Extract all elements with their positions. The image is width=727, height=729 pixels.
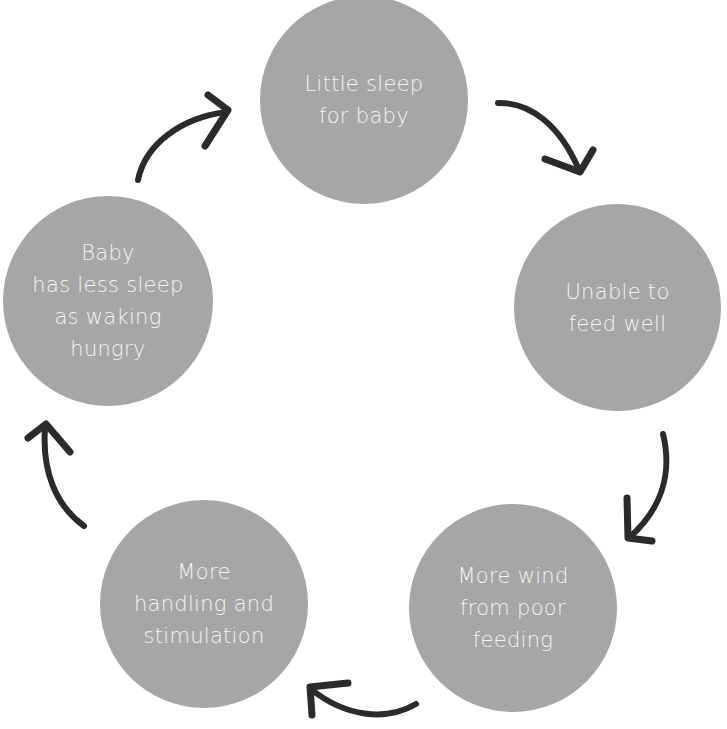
cycle-arrows <box>0 0 727 729</box>
arrow-icon <box>498 103 593 172</box>
arrow-icon <box>310 683 416 715</box>
arrow-icon <box>627 434 666 541</box>
arrow-icon <box>138 95 228 180</box>
arrow-icon <box>28 424 84 526</box>
